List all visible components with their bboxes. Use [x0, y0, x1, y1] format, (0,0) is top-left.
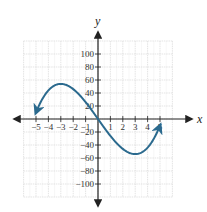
x-tick-label: 2: [121, 122, 126, 132]
function-graph: −5−4−3−2−11234510080604020−20−40−60−80−1…: [0, 0, 207, 212]
x-tick-label: −3: [56, 122, 66, 132]
y-tick-label: −60: [80, 153, 95, 163]
y-tick-label: 60: [85, 75, 95, 85]
y-tick-label: 100: [81, 49, 95, 59]
x-tick-label: −5: [31, 122, 41, 132]
axes: [14, 32, 192, 206]
x-tick-label: 4: [145, 122, 150, 132]
x-tick-label: −4: [44, 122, 54, 132]
x-tick-label: 3: [133, 122, 138, 132]
x-axis-label: x: [196, 112, 203, 126]
y-tick-label: −40: [80, 140, 95, 150]
y-tick-label: −100: [75, 179, 94, 189]
y-tick-label: −20: [80, 127, 95, 137]
y-axis-label: y: [94, 14, 101, 28]
y-tick-label: 40: [85, 88, 95, 98]
y-tick-label: −80: [80, 166, 95, 176]
y-tick-label: 80: [85, 62, 95, 72]
x-tick-label: 1: [108, 122, 113, 132]
x-tick-label: −2: [68, 122, 78, 132]
